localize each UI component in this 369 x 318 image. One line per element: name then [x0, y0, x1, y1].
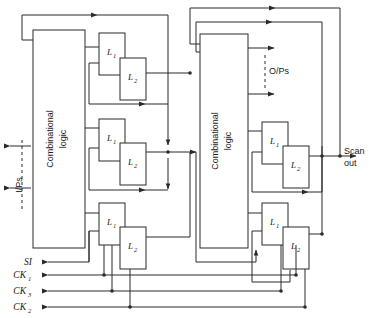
right-combinational-logic-block: Combinational logic [200, 34, 248, 248]
lssd-scan-design-diagram: Combinational logic Combinational logic … [0, 0, 369, 318]
right-middle-L2-label: L [290, 160, 296, 170]
right-block-label-line2: logic [223, 131, 233, 150]
clock-ck1-label: CK [13, 270, 26, 280]
right-block-label-line1: Combinational [210, 112, 220, 170]
clock-ck2-sub: 2 [28, 307, 32, 314]
left-lower-L1-label: L [106, 217, 112, 227]
junction-dot [303, 305, 307, 309]
right-lower-L1-label: L [269, 217, 275, 227]
right-middle-L1-sub: 1 [276, 141, 279, 148]
outputs-group: O/Ps [248, 48, 290, 94]
diagram-canvas: Combinational logic Combinational logic … [0, 0, 369, 318]
clock-ck1-sub: 1 [28, 275, 31, 282]
left-middle-L1-label: L [106, 133, 112, 143]
clock-ck1-group: CK 1 [13, 245, 297, 282]
scan-out-label-line1: Scan [344, 146, 365, 156]
left-upper-L1-label: L [106, 47, 112, 57]
inputs-label: I/Ps [14, 177, 24, 193]
scan-in-label: SI [24, 257, 33, 267]
outputs-label: O/Ps [269, 66, 290, 76]
scan-out-group: Scan out [344, 146, 365, 168]
clock-ck3-group: CK 3 [13, 245, 282, 298]
clock-ck3-sub: 3 [27, 291, 32, 298]
left-middle-L1-sub: 1 [113, 138, 116, 145]
inputs-group: I/Ps [10, 140, 31, 212]
right-lower-L2-label: L [290, 241, 296, 251]
junction-dot [294, 273, 298, 277]
left-combinational-logic-block: Combinational logic [33, 30, 85, 248]
left-lower-L1-sub: 1 [113, 222, 116, 229]
left-upper-L1-sub: 1 [113, 52, 116, 59]
left-block-label-line2: logic [58, 129, 68, 148]
junction-dot [188, 71, 192, 75]
left-block-label-line1: Combinational [45, 110, 55, 168]
left-middle-latch-pair: L 1 L 2 [85, 103, 196, 190]
clock-ck3-label: CK [13, 286, 26, 296]
scan-out-label-line2: out [344, 158, 357, 168]
left-lower-L2-label: L [127, 241, 133, 251]
left-middle-L2-label: L [127, 157, 133, 167]
clock-ck2-label: CK [13, 302, 26, 312]
left-upper-L2-label: L [127, 72, 133, 82]
right-lower-latch-pair: L 1 L 2 [248, 203, 324, 269]
left-upper-latch-pair: L 1 L 2 [85, 33, 192, 104]
junction-dot [166, 150, 170, 154]
right-lower-L1-sub: 1 [276, 222, 279, 229]
junction-dot [279, 289, 283, 293]
right-middle-L1-label: L [269, 136, 275, 146]
